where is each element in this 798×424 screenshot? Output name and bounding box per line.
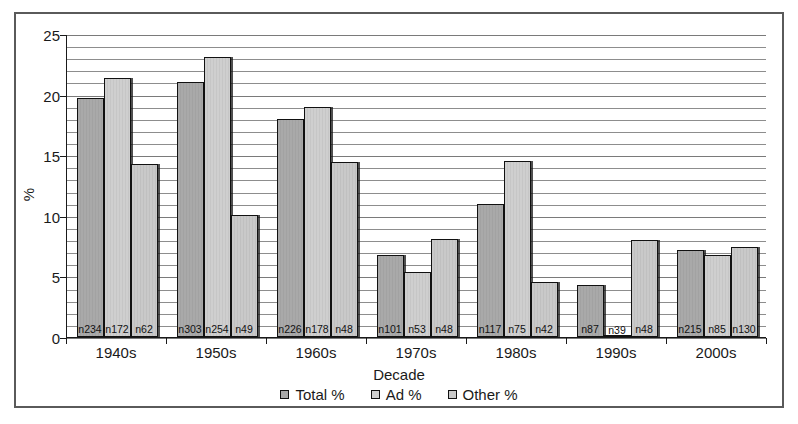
bar-value-label: n101 bbox=[378, 324, 403, 335]
x-axis-tick-label: 1990s bbox=[566, 344, 666, 361]
bar-group: n234n172n62 bbox=[67, 35, 167, 337]
x-axis-tick-label: 1970s bbox=[366, 344, 466, 361]
bar[interactable]: n48 bbox=[431, 239, 458, 337]
legend-swatch-icon bbox=[448, 390, 457, 399]
bar-value-label: n42 bbox=[532, 324, 557, 335]
x-axis-tick-label: 1940s bbox=[66, 344, 166, 361]
bar[interactable]: n117 bbox=[477, 204, 504, 337]
bar-value-label: n53 bbox=[405, 324, 430, 335]
bar-value-label: n117 bbox=[478, 324, 503, 335]
x-axis-tick-mark bbox=[666, 338, 667, 344]
bar[interactable]: n49 bbox=[231, 215, 258, 337]
x-axis-tick-mark bbox=[266, 338, 267, 344]
bar[interactable]: n62 bbox=[131, 164, 158, 337]
bar-value-label: n234 bbox=[78, 324, 103, 335]
legend-label: Total % bbox=[295, 386, 344, 403]
legend-swatch-icon bbox=[371, 390, 380, 399]
bar-group: n117n75n42 bbox=[467, 35, 567, 337]
y-axis-tick-label: 20 bbox=[26, 87, 60, 104]
bar-value-label: n48 bbox=[332, 324, 357, 335]
bar-value-label: n130 bbox=[732, 324, 757, 335]
bar[interactable]: n87 bbox=[577, 285, 604, 337]
legend-item[interactable]: Other % bbox=[448, 386, 518, 403]
legend-label: Ad % bbox=[386, 386, 422, 403]
bar-group: n101n53n48 bbox=[367, 35, 467, 337]
bar-value-label: n303 bbox=[178, 324, 203, 335]
bar[interactable]: n234 bbox=[77, 98, 104, 337]
y-axis-tick-label: 10 bbox=[26, 208, 60, 225]
bar-value-label: n226 bbox=[278, 324, 303, 335]
bar[interactable]: n48 bbox=[631, 240, 658, 337]
bar-group: n87n39n48 bbox=[567, 35, 667, 337]
bar[interactable]: n215 bbox=[677, 250, 704, 337]
plot-area: n234n172n62n303n254n49n226n178n48n101n53… bbox=[66, 35, 766, 338]
bar[interactable]: n178 bbox=[304, 107, 331, 337]
x-axis-tick-mark bbox=[566, 338, 567, 344]
bar[interactable]: n130 bbox=[731, 247, 758, 337]
x-axis-tick-mark bbox=[366, 338, 367, 344]
bar-value-label: n85 bbox=[705, 324, 730, 335]
x-axis-tick-label: 1960s bbox=[266, 344, 366, 361]
bar[interactable]: n75 bbox=[504, 161, 531, 337]
bar[interactable]: n101 bbox=[377, 255, 404, 337]
legend-swatch-icon bbox=[280, 390, 289, 399]
bar-group: n226n178n48 bbox=[267, 35, 367, 337]
chart-legend: Total %Ad %Other % bbox=[16, 386, 782, 403]
x-axis-tick-label: 1950s bbox=[166, 344, 266, 361]
bar-value-label: n75 bbox=[505, 324, 530, 335]
x-axis-tick-mark bbox=[466, 338, 467, 344]
gridline bbox=[67, 338, 766, 339]
bar-value-label: n215 bbox=[678, 324, 703, 335]
y-axis-tick-labels: 0510152025 bbox=[16, 35, 60, 338]
bar[interactable]: n303 bbox=[177, 82, 204, 337]
bar[interactable]: n53 bbox=[404, 272, 431, 337]
bar-group: n303n254n49 bbox=[167, 35, 267, 337]
bar[interactable]: n48 bbox=[331, 162, 358, 337]
legend-label: Other % bbox=[463, 386, 518, 403]
bar[interactable]: n172 bbox=[104, 78, 131, 337]
bar-value-label: n178 bbox=[305, 324, 330, 335]
bar-value-label: n48 bbox=[632, 324, 657, 335]
bar-value-label: n39 bbox=[605, 325, 630, 336]
bar[interactable]: n39 bbox=[604, 335, 631, 337]
bar[interactable]: n85 bbox=[704, 255, 731, 337]
x-axis-tick-mark bbox=[66, 338, 67, 344]
y-axis-tick-label: 0 bbox=[26, 330, 60, 347]
bar[interactable]: n254 bbox=[204, 57, 231, 337]
x-axis-tick-label: 2000s bbox=[666, 344, 766, 361]
bar[interactable]: n226 bbox=[277, 119, 304, 337]
bar-value-label: n172 bbox=[105, 324, 130, 335]
y-axis-tick-label: 25 bbox=[26, 27, 60, 44]
chart-figure: % 0510152025 n234n172n62n303n254n49n226n… bbox=[14, 12, 784, 408]
x-axis-tick-label: 1980s bbox=[466, 344, 566, 361]
bar[interactable]: n42 bbox=[531, 282, 558, 337]
y-axis-tick-label: 5 bbox=[26, 269, 60, 286]
y-axis-tick-label: 15 bbox=[26, 148, 60, 165]
x-axis-tick-mark bbox=[766, 338, 767, 344]
legend-item[interactable]: Total % bbox=[280, 386, 344, 403]
bar-value-label: n62 bbox=[132, 324, 157, 335]
bar-value-label: n87 bbox=[578, 324, 603, 335]
legend-item[interactable]: Ad % bbox=[371, 386, 422, 403]
x-axis-title: Decade bbox=[16, 366, 782, 383]
bar-value-label: n49 bbox=[232, 324, 257, 335]
x-axis-tick-mark bbox=[166, 338, 167, 344]
bar-value-label: n48 bbox=[432, 324, 457, 335]
bar-value-label: n254 bbox=[205, 324, 230, 335]
x-axis-tick-labels: 1940s1950s1960s1970s1980s1990s2000s bbox=[66, 344, 766, 366]
bar-group: n215n85n130 bbox=[667, 35, 767, 337]
